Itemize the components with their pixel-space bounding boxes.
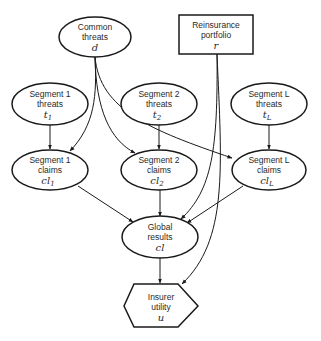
- node-label-line2: claims: [38, 165, 62, 175]
- node-label-line1: Segment 1: [29, 155, 70, 165]
- node-common-threats[interactable]: Common threats d: [59, 17, 131, 57]
- node-segment-L-claims[interactable]: Segment L claims clL: [232, 150, 306, 190]
- node-label-line1: Segment L: [248, 155, 289, 165]
- node-segment-1-threats[interactable]: Segment 1 threats t1: [12, 83, 88, 125]
- node-label-line2: threats: [37, 99, 63, 109]
- node-label-line1: Segment 2: [138, 89, 179, 99]
- edge-cl1-to-cl: [78, 186, 133, 222]
- node-label-line2: threats: [256, 99, 282, 109]
- node-segment-2-threats[interactable]: Segment 2 threats t2: [121, 83, 197, 125]
- node-label-line2: threats: [146, 99, 172, 109]
- node-label-line2: results: [147, 232, 172, 242]
- node-segment-2-claims[interactable]: Segment 2 claims cl2: [121, 150, 197, 190]
- edge-clL-to-cl: [187, 186, 243, 223]
- node-segment-L-threats[interactable]: Segment L threats tL: [231, 83, 307, 125]
- node-label-line1: Segment 2: [138, 155, 179, 165]
- node-label-line1: Insurer: [148, 292, 175, 302]
- node-variable: d: [92, 42, 98, 53]
- node-label-line1: Segment L: [248, 89, 289, 99]
- node-variable: u: [158, 312, 164, 323]
- node-segment-1-claims[interactable]: Segment 1 claims cl1: [12, 150, 88, 190]
- node-label-line1: Global: [148, 222, 173, 232]
- node-reinsurance-portfolio[interactable]: Reinsurance portfolio r: [179, 15, 253, 54]
- edge-r-to-cl: [181, 54, 217, 219]
- node-label-line2: claims: [257, 165, 281, 175]
- node-global-results[interactable]: Global results cl: [122, 216, 198, 258]
- node-variable: cl: [156, 242, 165, 253]
- node-label-line2: utility: [151, 302, 171, 312]
- node-insurer-utility[interactable]: Insurer utility u: [124, 284, 198, 327]
- node-label-line1: Common: [78, 22, 113, 32]
- node-label-line1: Segment 1: [29, 89, 70, 99]
- influence-diagram: Common threats d Reinsurance portfolio r…: [0, 0, 321, 341]
- node-label-line1: Reinsurance: [192, 20, 240, 30]
- node-label-line2: claims: [147, 165, 171, 175]
- node-label-line2: portfolio: [201, 30, 232, 40]
- node-label-line2: threats: [82, 32, 108, 42]
